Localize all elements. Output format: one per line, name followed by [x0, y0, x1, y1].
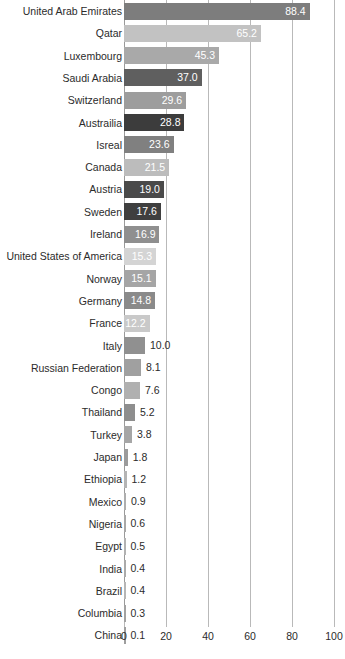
- bar-value-label: 5.2: [140, 404, 155, 421]
- tick-mark-0: [124, 622, 125, 627]
- bar: [124, 471, 127, 488]
- bar-row: Luxembourg45.3: [0, 45, 345, 67]
- category-label: Canada: [85, 156, 122, 178]
- category-label: United Arab Emirates: [23, 0, 122, 22]
- bar-row: Austria19.0: [0, 178, 345, 200]
- bar: [124, 560, 126, 577]
- bar-value-label: 65.2: [236, 25, 256, 42]
- bar-value-label: 28.8: [160, 114, 180, 131]
- bar-row: Ireland16.9: [0, 223, 345, 245]
- bar-value-label: 1.2: [132, 471, 147, 488]
- bar-value-label: 0.3: [131, 605, 146, 622]
- horizontal-bar-chart: United Arab Emirates88.4Qatar65.2Luxembo…: [0, 0, 345, 659]
- bar-value-label: 88.4: [285, 3, 305, 20]
- bar-row: Switzerland29.6: [0, 89, 345, 111]
- category-label: Brazil: [96, 580, 122, 602]
- bar-value-label: 15.1: [131, 270, 151, 287]
- bar-row: Italy10.0: [0, 335, 345, 357]
- bar: [124, 404, 135, 421]
- bar-row: Saudi Arabia37.0: [0, 67, 345, 89]
- bar-value-label: 7.6: [145, 382, 160, 399]
- bar-row: United Arab Emirates88.4: [0, 0, 345, 22]
- bar-row: Norway15.1: [0, 268, 345, 290]
- bar-value-label: 23.6: [149, 136, 169, 153]
- tick-mark-100: [334, 622, 335, 627]
- category-label: Congo: [91, 379, 122, 401]
- category-label: Russian Federation: [31, 357, 122, 379]
- tick-label-80: 80: [275, 630, 309, 642]
- bar: [124, 582, 126, 599]
- tick-label-100: 100: [317, 630, 345, 642]
- bar-value-label: 17.6: [137, 203, 157, 220]
- bar: [124, 337, 145, 354]
- category-label: Italy: [103, 335, 122, 357]
- category-label: Mexico: [89, 491, 122, 513]
- category-label: Sweden: [84, 201, 122, 223]
- bar-row: Sweden17.6: [0, 201, 345, 223]
- bar-value-label: 12.2: [125, 315, 145, 332]
- bar-row: Turkey3.8: [0, 424, 345, 446]
- category-label: India: [99, 558, 122, 580]
- category-label: Japan: [93, 446, 122, 468]
- bar-value-label: 0.4: [131, 560, 146, 577]
- bar-row: Austrailia28.8: [0, 112, 345, 134]
- bar-rows: United Arab Emirates88.4Qatar65.2Luxembo…: [0, 0, 345, 622]
- bar-value-label: 29.6: [162, 92, 182, 109]
- bar-value-label: 45.3: [195, 47, 215, 64]
- category-label: United States of America: [6, 245, 122, 267]
- bar-row: Congo7.6: [0, 379, 345, 401]
- category-label: Saudi Arabia: [62, 67, 122, 89]
- bar-row: Thailand5.2: [0, 401, 345, 423]
- bar: [124, 426, 132, 443]
- bar-row: India0.4: [0, 558, 345, 580]
- bar-value-label: 19.0: [139, 181, 159, 198]
- category-label: Austrailia: [79, 112, 122, 134]
- bar-value-label: 10.0: [150, 337, 170, 354]
- bar-value-label: 0.5: [131, 538, 146, 555]
- category-label: Luxembourg: [64, 45, 122, 67]
- tick-mark-80: [292, 622, 293, 627]
- tick-label-0: 0: [107, 630, 141, 642]
- category-label: Switzerland: [68, 89, 122, 111]
- bar-value-label: 8.1: [146, 359, 161, 376]
- tick-mark-40: [208, 622, 209, 627]
- bar-row: Ethiopia1.2: [0, 468, 345, 490]
- tick-mark-60: [250, 622, 251, 627]
- bar-row: Mexico0.9: [0, 491, 345, 513]
- bar-row: Russian Federation8.1: [0, 357, 345, 379]
- bar-value-label: 16.9: [135, 226, 155, 243]
- category-label: Nigeria: [89, 513, 122, 535]
- bar: [124, 538, 126, 555]
- category-label: Qatar: [96, 22, 122, 44]
- plot-area: United Arab Emirates88.4Qatar65.2Luxembo…: [0, 0, 345, 622]
- category-label: Ethiopia: [84, 468, 122, 490]
- category-label: Ireland: [90, 223, 122, 245]
- tick-label-60: 60: [233, 630, 267, 642]
- bar-row: Canada21.5: [0, 156, 345, 178]
- category-label: Norway: [86, 268, 122, 290]
- bar: [124, 3, 310, 20]
- bar-row: Isreal23.6: [0, 134, 345, 156]
- bar-value-label: 0.6: [131, 515, 146, 532]
- bar-value-label: 3.8: [137, 426, 152, 443]
- bar-row: Egypt0.5: [0, 535, 345, 557]
- category-label: Turkey: [90, 424, 122, 446]
- bar: [124, 493, 126, 510]
- bar-row: Germany14.8: [0, 290, 345, 312]
- bar-value-label: 0.9: [131, 493, 146, 510]
- bar-row: Qatar65.2: [0, 22, 345, 44]
- category-label: Thailand: [82, 401, 122, 423]
- x-axis: 020406080100: [0, 622, 345, 659]
- bar: [124, 605, 126, 622]
- tick-mark-20: [166, 622, 167, 627]
- tick-label-20: 20: [149, 630, 183, 642]
- bar: [124, 359, 141, 376]
- bar: [124, 382, 140, 399]
- category-label: France: [89, 312, 122, 334]
- bar-row: Brazil0.4: [0, 580, 345, 602]
- bar-value-label: 21.5: [145, 159, 165, 176]
- category-label: Isreal: [96, 134, 122, 156]
- bar-row: France12.2: [0, 312, 345, 334]
- bar: [124, 515, 126, 532]
- tick-label-40: 40: [191, 630, 225, 642]
